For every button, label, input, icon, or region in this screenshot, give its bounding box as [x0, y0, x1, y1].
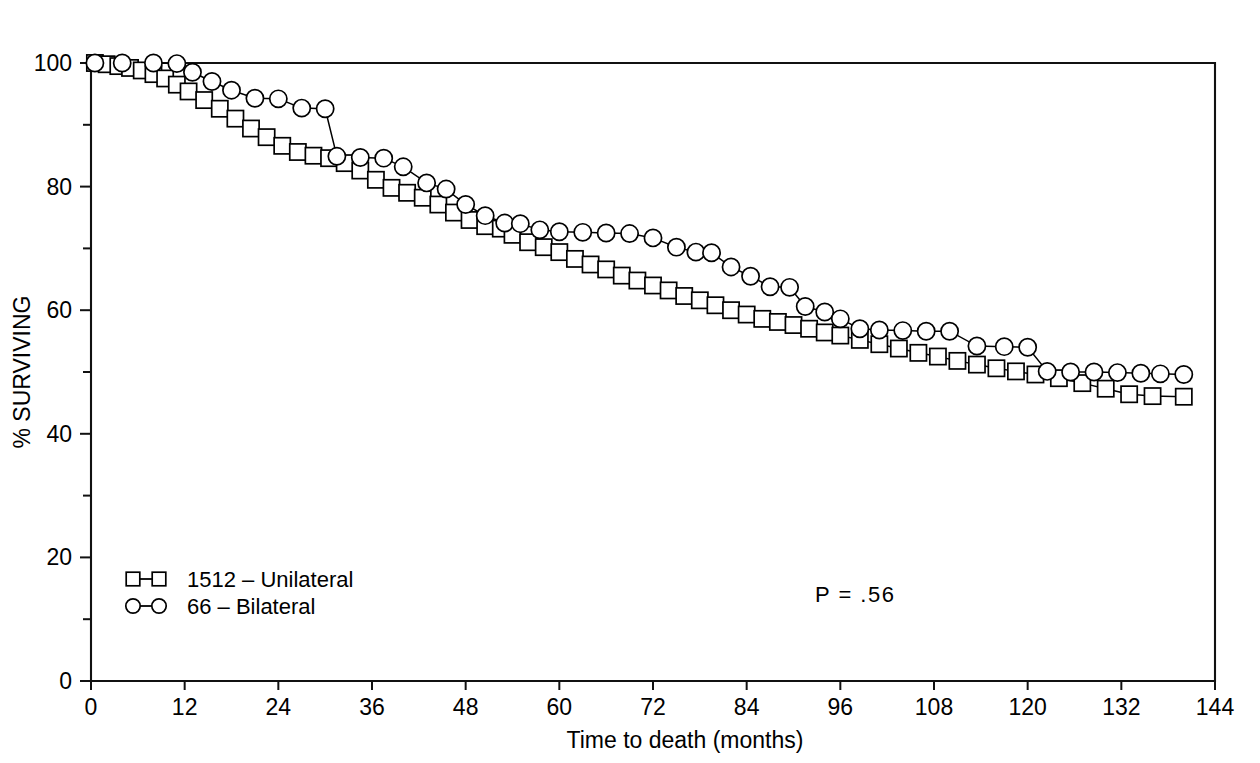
data-point-circle — [496, 214, 513, 231]
data-point-square — [817, 324, 833, 340]
data-point-circle — [352, 149, 369, 166]
data-point-circle — [761, 278, 778, 295]
data-point-circle — [918, 323, 935, 340]
legend: 1512 – Unilateral66 – Bilateral — [126, 567, 354, 619]
x-tick-label: 12 — [172, 694, 198, 720]
data-point-circle — [375, 150, 392, 167]
data-point-square — [399, 185, 415, 201]
x-tick-label: 48 — [453, 694, 479, 720]
survival-chart: 0204060801000122436486072849610812013214… — [0, 0, 1260, 763]
data-point-circle — [968, 337, 985, 354]
data-point-circle — [703, 244, 720, 261]
axis-titles-group: Time to death (months)% SURVIVING — [9, 296, 803, 753]
data-point-square — [259, 129, 275, 145]
x-tick-label: 108 — [915, 694, 953, 720]
data-point-circle — [223, 82, 240, 99]
data-point-circle — [687, 244, 704, 261]
x-tick-label: 60 — [547, 694, 573, 720]
data-point-square — [988, 360, 1004, 376]
data-point-circle — [1132, 365, 1149, 382]
data-point-circle — [438, 180, 455, 197]
legend-marker-circle — [126, 599, 140, 613]
data-point-circle — [184, 64, 201, 81]
data-point-circle — [1085, 363, 1102, 380]
data-point-circle — [816, 303, 833, 320]
data-point-square — [180, 83, 196, 99]
data-point-circle — [246, 90, 263, 107]
data-point-circle — [1175, 366, 1192, 383]
data-point-square — [274, 138, 290, 154]
data-point-square — [582, 256, 598, 272]
data-point-circle — [203, 73, 220, 90]
data-point-square — [243, 120, 259, 136]
data-point-square — [707, 297, 723, 313]
x-tick-label: 36 — [359, 694, 385, 720]
series-markers-bilateral — [86, 54, 1192, 383]
data-point-circle — [1109, 364, 1126, 381]
data-point-square — [196, 92, 212, 108]
data-point-square — [969, 356, 985, 372]
legend-label: 1512 – Unilateral — [187, 567, 353, 592]
data-point-circle — [871, 321, 888, 338]
data-point-square — [661, 282, 677, 298]
data-point-circle — [531, 221, 548, 238]
x-tick-label: 132 — [1102, 694, 1140, 720]
series-markers-group — [86, 54, 1192, 404]
y-tick-label: 20 — [46, 544, 72, 570]
data-point-circle — [477, 207, 494, 224]
data-point-circle — [145, 54, 162, 71]
data-point-square — [801, 321, 817, 337]
chart-canvas: 0204060801000122436486072849610812013214… — [0, 0, 1260, 763]
y-tick-label: 40 — [46, 421, 72, 447]
data-point-circle — [317, 100, 334, 117]
data-point-square — [645, 277, 661, 293]
data-point-circle — [86, 54, 103, 71]
data-point-circle — [574, 224, 591, 241]
data-point-circle — [722, 258, 739, 275]
data-point-square — [891, 340, 907, 356]
x-axis-title: Time to death (months) — [567, 727, 804, 753]
data-point-circle — [168, 55, 185, 72]
series-line-bilateral — [95, 63, 1184, 374]
legend-label: 66 – Bilateral — [187, 594, 315, 619]
data-point-square — [430, 196, 446, 212]
data-point-square — [930, 348, 946, 364]
data-point-circle — [598, 224, 615, 241]
data-point-square — [1176, 389, 1192, 405]
data-point-circle — [270, 90, 287, 107]
pvalue-annotation: P = .56 — [815, 582, 895, 607]
data-point-circle — [418, 174, 435, 191]
y-tick-label: 0 — [59, 668, 72, 694]
data-point-square — [551, 244, 567, 260]
data-point-square — [676, 288, 692, 304]
data-point-square — [368, 172, 384, 188]
data-point-circle — [293, 100, 310, 117]
p-value-label: P = .56 — [815, 582, 895, 607]
data-point-square — [723, 302, 739, 318]
data-point-square — [1008, 363, 1024, 379]
legend-item: 66 – Bilateral — [126, 594, 316, 619]
data-point-circle — [941, 323, 958, 340]
data-point-square — [910, 345, 926, 361]
legend-marker-circle — [152, 599, 166, 613]
y-tick-label: 60 — [46, 297, 72, 323]
data-point-square — [212, 101, 228, 117]
data-point-square — [785, 317, 801, 333]
data-point-square — [461, 212, 477, 228]
data-point-square — [536, 239, 552, 255]
data-point-circle — [797, 298, 814, 315]
y-tick-label: 80 — [46, 174, 72, 200]
data-point-square — [383, 180, 399, 196]
data-point-circle — [668, 239, 685, 256]
data-point-circle — [781, 279, 798, 296]
data-point-square — [614, 267, 630, 283]
data-point-square — [832, 327, 848, 343]
y-tick-label: 100 — [34, 50, 72, 76]
x-tick-label: 120 — [1008, 694, 1046, 720]
data-point-square — [629, 272, 645, 288]
data-point-circle — [851, 320, 868, 337]
data-point-square — [692, 292, 708, 308]
data-point-square — [598, 261, 614, 277]
data-point-circle — [114, 54, 131, 71]
data-point-square — [754, 311, 770, 327]
